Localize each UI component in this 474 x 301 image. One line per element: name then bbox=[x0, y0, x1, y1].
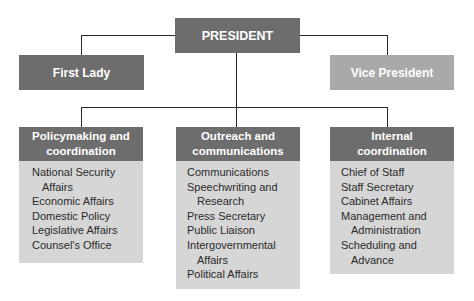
connector-panel-right bbox=[387, 107, 388, 127]
connector-vice-president bbox=[387, 35, 388, 55]
item-text-cont: Affairs bbox=[187, 253, 292, 268]
item-text: Cabinet Affairs bbox=[341, 195, 412, 207]
internal-panel: Internal coordination Chief of Staff Sta… bbox=[330, 127, 454, 274]
vice-president-label: Vice President bbox=[351, 66, 434, 80]
item-text: Intergovernmental bbox=[187, 239, 276, 251]
item-text: Economic Affairs bbox=[32, 195, 114, 207]
connector-panel-left bbox=[81, 107, 82, 127]
item-text: Political Affairs bbox=[187, 268, 258, 280]
list-item: Legislative Affairs bbox=[32, 223, 135, 238]
connector-first-lady bbox=[81, 35, 82, 55]
panel-body: National SecurityAffairs Economic Affair… bbox=[19, 161, 143, 263]
panel-title-line2: coordination bbox=[32, 144, 130, 159]
first-lady-box: First Lady bbox=[19, 55, 144, 90]
list-item: Press Secretary bbox=[187, 209, 292, 224]
item-text: Management and bbox=[341, 210, 427, 222]
item-text: Press Secretary bbox=[187, 210, 265, 222]
list-item: Public Liaison bbox=[187, 223, 292, 238]
panel-header: Internal coordination bbox=[330, 127, 454, 161]
president-box: PRESIDENT bbox=[175, 18, 300, 53]
panel-title-line1: Internal bbox=[357, 129, 427, 144]
list-item: Speechwriting andResearch bbox=[187, 180, 292, 209]
list-item: Management andAdministration bbox=[341, 209, 446, 238]
item-text-cont: Affairs bbox=[32, 180, 135, 195]
list-item: Scheduling andAdvance bbox=[341, 238, 446, 267]
list-item: IntergovernmentalAffairs bbox=[187, 238, 292, 267]
item-text-cont: Research bbox=[187, 194, 292, 209]
outreach-panel: Outreach and communications Communicatio… bbox=[176, 127, 300, 289]
list-item: National SecurityAffairs bbox=[32, 165, 135, 194]
list-item: Domestic Policy bbox=[32, 209, 135, 224]
list-item: Cabinet Affairs bbox=[341, 194, 446, 209]
item-text: Legislative Affairs bbox=[32, 224, 117, 236]
item-text: Chief of Staff bbox=[341, 166, 404, 178]
list-item: Staff Secretary bbox=[341, 180, 446, 195]
item-text: Scheduling and bbox=[341, 239, 417, 251]
list-item: Communications bbox=[187, 165, 292, 180]
vice-president-box: Vice President bbox=[330, 55, 454, 90]
list-item: Counsel's Office bbox=[32, 238, 135, 253]
list-item: Political Affairs bbox=[187, 267, 292, 282]
panel-body: Communications Speechwriting andResearch… bbox=[176, 161, 300, 289]
item-text: Public Liaison bbox=[187, 224, 255, 236]
item-text: Speechwriting and bbox=[187, 181, 278, 193]
panel-title-line2: coordination bbox=[357, 144, 427, 159]
panel-title-line1: Outreach and bbox=[192, 129, 283, 144]
list-item: Chief of Staff bbox=[341, 165, 446, 180]
panel-header: Outreach and communications bbox=[176, 127, 300, 161]
connector-president-down bbox=[236, 53, 237, 127]
item-text: Counsel's Office bbox=[32, 239, 112, 251]
policymaking-panel: Policymaking and coordination National S… bbox=[19, 127, 143, 263]
item-text: Domestic Policy bbox=[32, 210, 110, 222]
panel-header: Policymaking and coordination bbox=[19, 127, 143, 161]
president-label: PRESIDENT bbox=[202, 29, 274, 43]
panel-body: Chief of Staff Staff Secretary Cabinet A… bbox=[330, 161, 454, 274]
item-text: Communications bbox=[187, 166, 269, 178]
item-text: National Security bbox=[32, 166, 115, 178]
connector-mid-horizontal bbox=[81, 107, 388, 108]
item-text-cont: Advance bbox=[341, 253, 446, 268]
first-lady-label: First Lady bbox=[53, 66, 110, 80]
panel-title-line1: Policymaking and bbox=[32, 129, 130, 144]
list-item: Economic Affairs bbox=[32, 194, 135, 209]
item-text: Staff Secretary bbox=[341, 181, 414, 193]
item-text-cont: Administration bbox=[341, 223, 446, 238]
panel-title-line2: communications bbox=[192, 144, 283, 159]
